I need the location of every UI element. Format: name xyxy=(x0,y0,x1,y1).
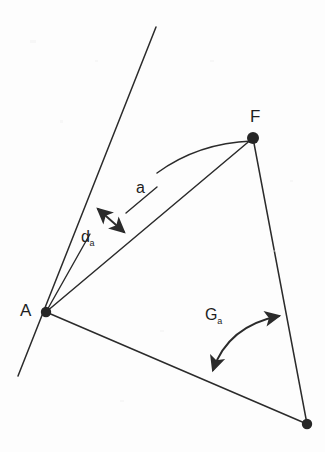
arc-angle-g-a xyxy=(213,316,279,370)
diagram-canvas xyxy=(0,0,325,452)
point-a-dot xyxy=(41,307,51,317)
segment-f-to-point xyxy=(253,138,307,424)
line-through-a xyxy=(18,27,156,376)
segment-a-to-point xyxy=(46,312,307,424)
point-label-a: A xyxy=(20,302,31,319)
measure-label-g-a: Ga xyxy=(205,307,222,323)
point-f-dot xyxy=(247,132,259,144)
measure-label-d-a: da xyxy=(81,229,94,245)
measure-label-g-a-base: G xyxy=(205,306,217,323)
measure-label-a: a xyxy=(136,180,145,196)
arc-distance-a xyxy=(157,141,252,173)
point-label-f: F xyxy=(250,108,260,125)
measure-label-d-a-base: d xyxy=(81,228,90,245)
geometry-figure: A F a da Ga xyxy=(0,0,325,452)
arrow-d-a xyxy=(98,209,124,232)
measure-label-d-a-subscript: a xyxy=(90,238,95,248)
measure-label-g-a-subscript: a xyxy=(217,316,222,326)
point-lower-dot xyxy=(302,419,312,429)
leader-line-d-a xyxy=(46,234,90,312)
